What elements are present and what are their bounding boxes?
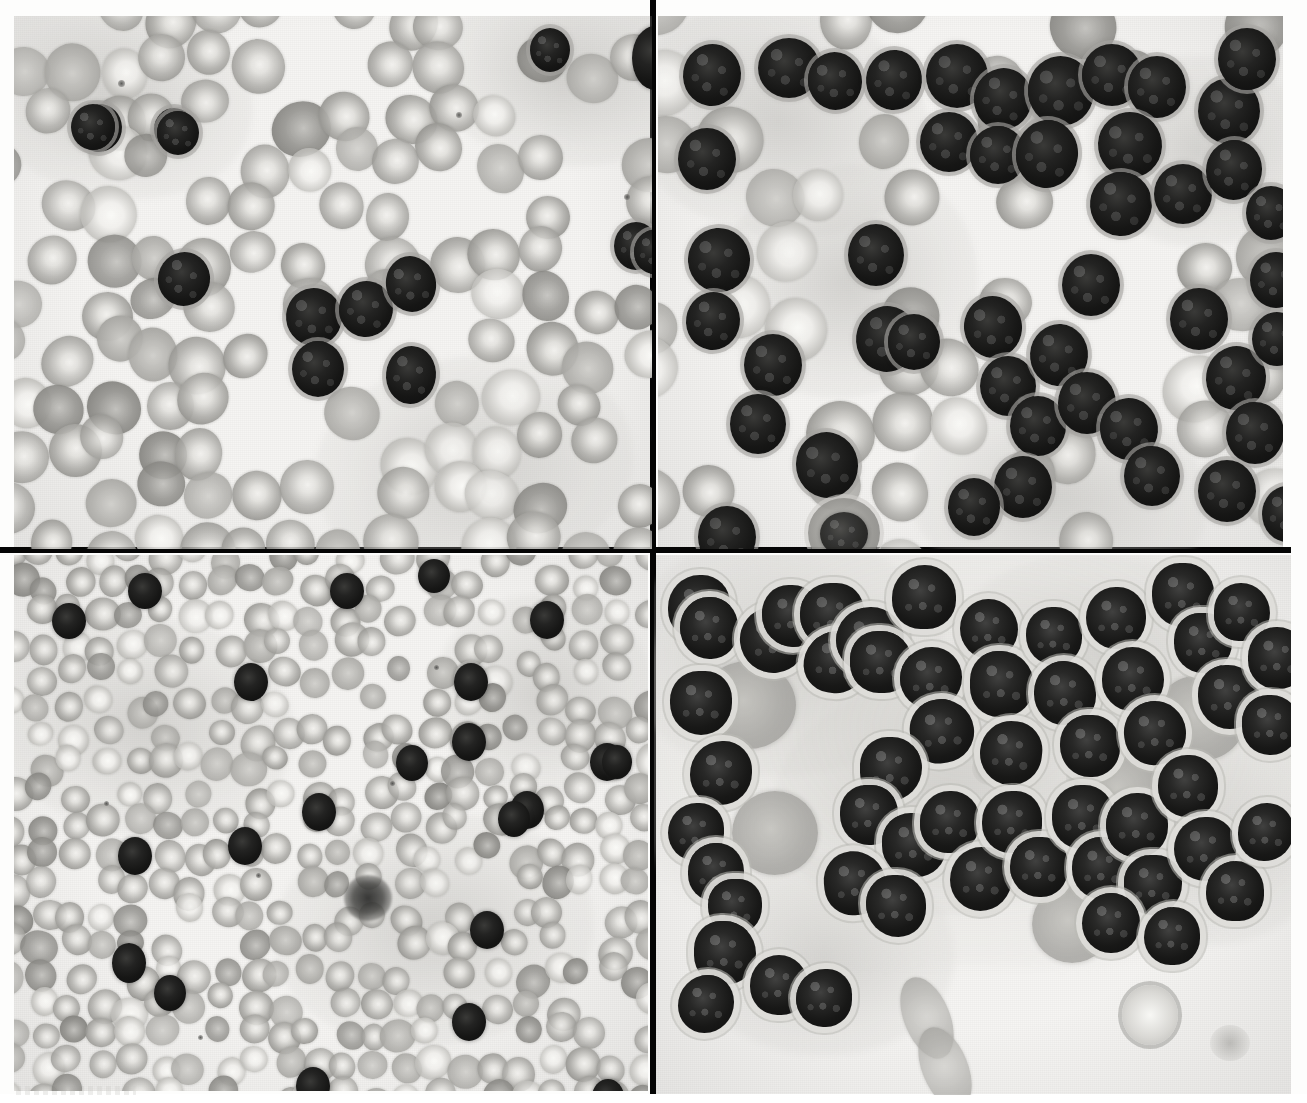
platelet <box>456 112 462 118</box>
red-blood-cell <box>323 726 352 757</box>
blast-cell <box>1106 793 1168 857</box>
panel-bottom-left[interactable] <box>14 555 648 1091</box>
blast-cell <box>970 651 1034 717</box>
lymphocyte <box>330 573 364 609</box>
blast-cell <box>1158 755 1218 817</box>
lymphocyte <box>52 603 86 639</box>
lymphocyte <box>1226 402 1283 464</box>
red-blood-cell <box>617 322 652 385</box>
blast-cell <box>1242 695 1291 755</box>
red-blood-cell <box>32 1021 62 1050</box>
red-blood-cell <box>608 279 652 335</box>
platelet <box>118 80 125 87</box>
red-blood-cell <box>569 807 599 835</box>
red-blood-cell <box>364 191 411 242</box>
red-blood-cell <box>267 780 295 808</box>
lymphocyte <box>157 111 199 155</box>
panel-bottom-right[interactable] <box>654 555 1291 1095</box>
red-blood-cell <box>225 225 281 278</box>
red-blood-cell <box>630 555 648 576</box>
lymphocyte <box>128 573 162 609</box>
platelet <box>256 873 261 878</box>
cell-debris <box>1210 1025 1250 1061</box>
lymphocyte <box>452 723 486 761</box>
blast-cell <box>1082 893 1140 953</box>
lymphocyte <box>228 827 262 865</box>
vacuolated-cell <box>1122 985 1178 1045</box>
red-blood-cell <box>596 562 635 599</box>
red-blood-cell <box>379 601 421 642</box>
blast-cell <box>1026 607 1082 665</box>
red-blood-cell <box>59 1014 89 1043</box>
red-blood-cell <box>82 475 140 531</box>
panel-top-right[interactable] <box>658 16 1283 549</box>
blast-cell <box>1060 715 1120 777</box>
panel-top-left[interactable] <box>14 16 652 549</box>
lymphocyte <box>530 28 570 72</box>
red-blood-cell <box>355 1049 388 1080</box>
lymphocyte <box>1218 28 1276 90</box>
red-blood-cell <box>535 565 569 596</box>
blast-cell <box>678 975 734 1033</box>
lymphocyte <box>470 911 504 949</box>
red-blood-cell <box>518 134 564 180</box>
red-blood-cell <box>29 517 76 549</box>
red-blood-cell <box>356 679 391 713</box>
red-blood-cell <box>184 176 233 227</box>
blast-cell <box>1144 907 1200 965</box>
lymphocyte <box>118 837 152 875</box>
lymphocyte <box>71 104 115 150</box>
red-blood-cell <box>329 16 378 31</box>
lymphocyte <box>888 314 940 370</box>
blast-cell <box>1248 627 1291 689</box>
red-blood-cell <box>110 1037 154 1081</box>
lymphocyte <box>154 975 186 1011</box>
red-blood-cell <box>84 528 139 549</box>
red-blood-cell <box>88 1048 119 1080</box>
blast-cell <box>1086 587 1146 649</box>
lymphocyte <box>1154 164 1212 224</box>
red-blood-cell <box>514 1015 543 1045</box>
red-blood-cell <box>630 594 648 633</box>
lymphocyte <box>1062 254 1120 316</box>
blast-cell <box>960 599 1018 659</box>
lymphocyte <box>292 341 344 397</box>
lymphocyte <box>1170 288 1228 350</box>
lymphocyte <box>454 663 488 701</box>
bottom-margin <box>0 1094 1307 1103</box>
red-blood-cell <box>658 461 685 537</box>
blast-cell <box>892 565 956 629</box>
red-blood-cell <box>296 664 332 701</box>
lymphocyte <box>112 943 146 983</box>
lymphocyte <box>602 745 632 779</box>
red-blood-cell <box>202 1013 232 1045</box>
platelet <box>390 781 395 786</box>
blast-cell <box>670 671 732 735</box>
lymphocyte <box>452 1003 486 1041</box>
blast-cell <box>1238 803 1291 861</box>
red-blood-cell <box>296 746 331 780</box>
smudge-cell <box>344 875 392 921</box>
lymphocyte <box>848 224 904 286</box>
lymphocyte <box>948 478 1000 536</box>
lymphocyte <box>1124 446 1180 506</box>
red-blood-cell <box>14 430 50 485</box>
red-blood-cell <box>532 1074 570 1091</box>
blast-cell <box>1010 837 1068 897</box>
lymphocyte <box>418 559 450 593</box>
red-blood-cell <box>514 263 577 328</box>
lymphocyte <box>920 112 978 172</box>
red-blood-cell <box>121 1076 157 1091</box>
lymphocyte <box>1128 56 1186 118</box>
red-blood-cell <box>386 656 410 682</box>
lymphocyte <box>234 663 268 701</box>
blast-cell <box>796 969 852 1027</box>
granulocyte-nucleus <box>820 512 868 549</box>
red-blood-cell <box>14 481 36 535</box>
blast-cell <box>680 597 738 659</box>
lymphocyte <box>302 793 336 831</box>
lymphocyte <box>678 128 736 190</box>
red-blood-cell <box>360 1088 393 1091</box>
lymphocyte <box>530 601 564 639</box>
platelet <box>104 801 109 806</box>
